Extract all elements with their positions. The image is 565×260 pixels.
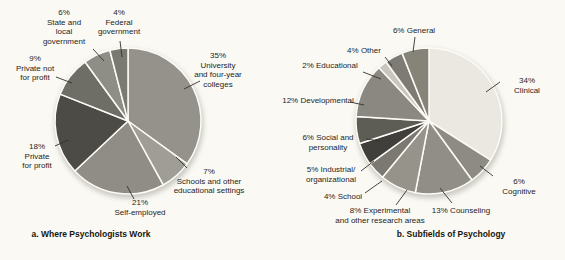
label-a-private-not-for-profit: 9% Private not for profit	[16, 54, 54, 83]
label-b-cognitive: 6% Cognitive	[496, 177, 542, 196]
figure-psychology-pie-charts: 6% State and local government 4% Federal…	[0, 0, 565, 260]
label-b-general: 6% General	[393, 26, 435, 36]
label-a-federal-government: 4% Federal government	[98, 8, 140, 37]
label-a-schools: 7% Schools and other educational setting…	[174, 167, 245, 196]
label-b-school: 4% School	[324, 192, 362, 202]
caption-chart-b: b. Subfields of Psychology	[397, 229, 506, 239]
pie-b-subfields-of-psychology	[356, 48, 502, 194]
label-b-industrial: 5% Industrial/ organizational	[306, 165, 356, 184]
label-b-clinical: 34% Clinical	[508, 76, 546, 95]
leader-b-school	[365, 181, 382, 193]
label-b-educational: 2% Educational	[302, 61, 358, 71]
label-b-social: 6% Social and personality	[302, 133, 353, 152]
label-b-counseling: 13% Counseling	[432, 206, 490, 216]
label-a-state-local-government: 6% State and local government	[43, 8, 85, 46]
caption-chart-a: a. Where Psychologists Work	[32, 229, 151, 239]
label-a-self-employed: 21% Self-employed	[114, 198, 165, 217]
label-b-experimental: 8% Experimental and other research areas	[335, 206, 424, 225]
label-b-developmental: 12% Developmental	[282, 96, 354, 106]
label-a-university: 35% University and four-year colleges	[194, 51, 242, 89]
label-b-other: 4% Other	[347, 46, 381, 56]
label-a-private-for-profit: 18% Private for profit	[22, 142, 51, 171]
